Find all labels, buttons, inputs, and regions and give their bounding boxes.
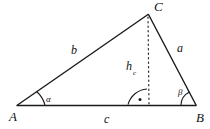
vertex-label-C: C bbox=[154, 0, 163, 13]
right-angle-dot bbox=[139, 98, 142, 101]
altitude-label-subscript: c bbox=[133, 69, 136, 77]
side-label-b: b bbox=[71, 44, 77, 56]
side-label-a: a bbox=[177, 42, 183, 54]
altitude-label: hc bbox=[126, 60, 135, 75]
right-angle-arc bbox=[128, 89, 147, 105]
angle-label-alpha: α bbox=[46, 95, 51, 104]
side-label-c: c bbox=[104, 113, 109, 125]
altitude-line bbox=[148, 17, 149, 104]
vertex-label-B: B bbox=[196, 111, 204, 124]
geometry-figure: A B C b a c hc α β bbox=[0, 0, 210, 129]
angle-label-beta: β bbox=[178, 88, 182, 97]
side-a-line bbox=[149, 15, 197, 106]
angle-arc-alpha bbox=[37, 92, 45, 106]
altitude-label-base: h bbox=[126, 59, 132, 73]
triangle-diagram bbox=[0, 0, 210, 129]
vertex-label-A: A bbox=[9, 110, 17, 123]
